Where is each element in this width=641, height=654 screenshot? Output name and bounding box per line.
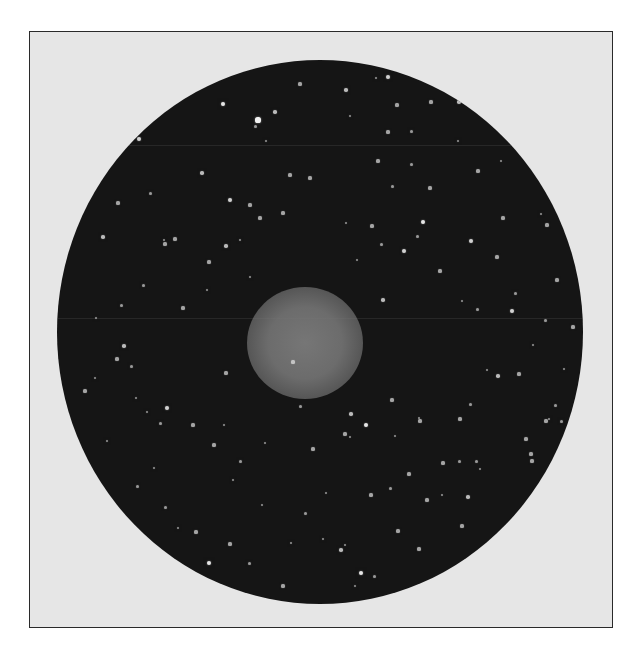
star: [554, 404, 557, 407]
star: [417, 547, 420, 550]
star: [514, 292, 517, 295]
star: [224, 244, 228, 248]
star: [486, 369, 489, 372]
star: [194, 530, 197, 533]
star: [510, 309, 514, 313]
star: [354, 585, 357, 588]
star: [544, 419, 547, 422]
star: [254, 125, 257, 128]
star: [386, 75, 390, 79]
star: [389, 487, 392, 490]
star: [563, 368, 566, 371]
star: [532, 344, 535, 347]
star: [359, 571, 363, 575]
star: [290, 542, 293, 545]
star: [466, 495, 470, 499]
star: [505, 555, 509, 559]
star: [146, 411, 149, 414]
star: [149, 192, 152, 195]
star: [460, 524, 463, 527]
star: [395, 103, 398, 106]
star: [135, 397, 138, 400]
star: [555, 278, 558, 281]
scan-line: [57, 318, 583, 319]
star: [364, 423, 368, 427]
star: [163, 239, 166, 242]
star: [376, 159, 379, 162]
star: [517, 372, 520, 375]
star: [344, 88, 348, 92]
star: [421, 220, 425, 224]
star: [560, 420, 563, 423]
star: [540, 213, 543, 216]
image-description: Astronomical telescope photograph of a p…: [0, 0, 1, 1]
star: [239, 239, 242, 242]
star: [513, 528, 516, 531]
star: [120, 304, 123, 307]
star: [122, 344, 126, 348]
star: [394, 435, 397, 438]
star: [137, 137, 141, 141]
star: [223, 424, 226, 427]
star: [173, 237, 176, 240]
star: [402, 249, 406, 253]
star: [349, 436, 352, 439]
star: [228, 542, 231, 545]
star: [390, 398, 393, 401]
star: [221, 102, 225, 106]
star: [206, 289, 209, 292]
star: [345, 222, 348, 225]
star: [571, 325, 574, 328]
star: [311, 447, 314, 450]
star: [248, 562, 251, 565]
star: [343, 432, 346, 435]
star: [224, 371, 227, 374]
star: [142, 284, 145, 287]
star: [469, 403, 472, 406]
star: [153, 467, 156, 470]
star: [207, 260, 210, 263]
star: [191, 423, 194, 426]
star: [458, 460, 461, 463]
star: [106, 440, 109, 443]
star: [339, 548, 343, 552]
star: [457, 140, 460, 143]
planetary-nebula: [247, 287, 363, 399]
star: [461, 300, 464, 303]
star: [369, 493, 372, 496]
star: [308, 176, 311, 179]
star: [410, 163, 413, 166]
star: [500, 160, 503, 163]
star: [544, 319, 547, 322]
star: [130, 365, 133, 368]
star: [476, 308, 479, 311]
star: [349, 115, 352, 118]
star: [425, 498, 428, 501]
star: [529, 452, 532, 455]
star: [207, 561, 211, 565]
star: [441, 494, 444, 497]
star: [265, 140, 268, 143]
star: [163, 242, 166, 245]
star: [273, 110, 277, 114]
star: [483, 550, 486, 553]
star: [322, 538, 325, 541]
telescope-field: [57, 60, 583, 604]
scan-line: [57, 145, 583, 146]
star: [407, 472, 410, 475]
star: [530, 459, 533, 462]
photo-canvas: Astronomical telescope photograph of a p…: [0, 0, 641, 654]
star: [501, 216, 504, 219]
star: [438, 269, 441, 272]
star: [458, 417, 461, 420]
star: [479, 468, 482, 471]
star: [325, 492, 328, 495]
star: [381, 298, 385, 302]
star: [200, 171, 204, 175]
star: [429, 100, 432, 103]
star: [410, 130, 413, 133]
star: [457, 100, 461, 104]
star: [304, 512, 307, 515]
star: [375, 77, 378, 80]
star: [476, 169, 479, 172]
